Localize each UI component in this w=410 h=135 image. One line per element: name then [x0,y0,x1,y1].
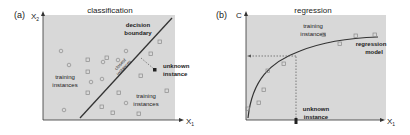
panel-regression: (b) regression C X1 unknown instance [216,6,395,127]
training-right-1: training [136,93,156,99]
y-arrow-icon [41,11,45,16]
y-axis-label-b: C [236,11,242,20]
unknown-label-b-1: unknown [303,106,330,112]
model-label-2: model [365,49,383,55]
panel-classification: (a) classification X2 X1 decision bounda… [14,6,194,127]
panel-label-a: (a) [14,10,25,20]
boundary-label-1: decision [126,22,151,28]
x-axis-label-b: X1 [387,117,395,127]
title-regression: regression [294,6,331,15]
x-arrow-icon [179,118,184,122]
panel-label-b: (b) [216,10,227,20]
unknown-instance-marker [153,68,157,72]
training-left-1: training [55,74,75,80]
model-label-1: regression [356,41,387,47]
training-label-b-2: instances [300,31,325,37]
unknown-instance-marker-b [295,118,298,124]
title-classification: classification [87,6,132,15]
training-label-b-1: training [303,23,323,29]
x-axis-label-a: X1 [186,117,194,127]
unknown-label-b-2: instance [304,114,329,120]
unknown-label-a-2: instance [163,71,188,77]
training-left-2: instances [52,82,77,88]
y-axis-label-a: X2 [31,12,39,22]
unknown-label-a-1: unknown [163,63,190,69]
boundary-label-2: boundary [124,30,152,36]
training-right-2: instances [133,101,158,107]
y-arrow-icon [244,11,248,16]
figure: (a) classification X2 X1 decision bounda… [0,0,410,135]
